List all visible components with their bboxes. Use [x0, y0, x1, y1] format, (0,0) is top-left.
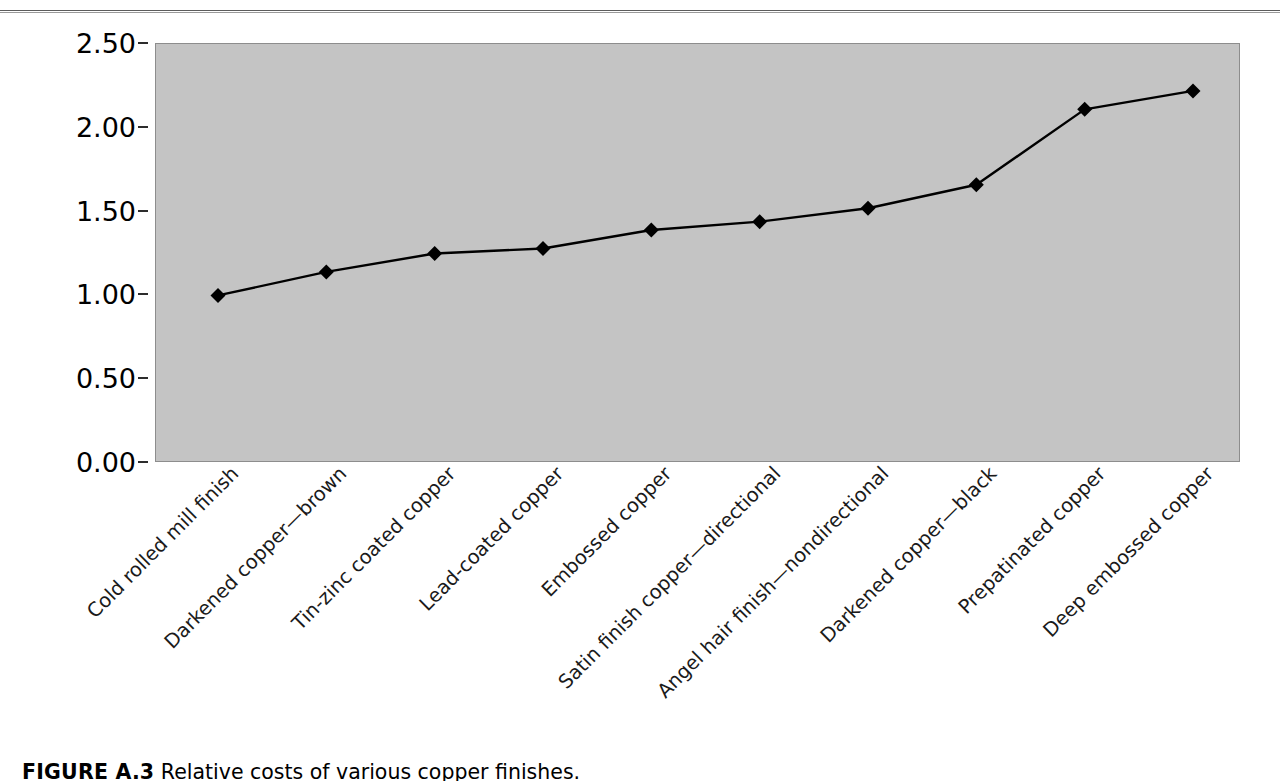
data-point-marker	[752, 214, 767, 229]
y-axis-tick-mark	[138, 377, 148, 379]
page-header-rule	[0, 10, 1280, 11]
data-point-marker	[861, 201, 876, 216]
x-axis-category-label-text: Angel hair finish—nondirectional	[653, 462, 894, 703]
data-point-marker	[536, 241, 551, 256]
data-point-marker	[319, 264, 334, 279]
figure-page: 0.000.501.001.502.002.50 Cold rolled mil…	[0, 0, 1280, 781]
data-point-marker	[211, 288, 226, 303]
series-line	[218, 91, 1193, 295]
y-axis-tick-mark	[138, 42, 148, 44]
y-axis-tick-label: 0.50	[76, 363, 136, 394]
figure-caption: FIGURE A.3 Relative costs of various cop…	[22, 760, 1262, 781]
x-axis-category-label-text: Darkened copper—black	[816, 462, 1001, 647]
x-axis-category-label-text: Darkened copper—brown	[160, 462, 351, 653]
data-point-marker	[1186, 83, 1201, 98]
y-axis-tick-mark	[138, 210, 148, 212]
x-axis-category-label-text: Satin finish copper—directional	[553, 462, 785, 694]
page-header-text	[740, 0, 1160, 6]
y-axis-tick-mark	[138, 293, 148, 295]
y-axis: 0.000.501.001.502.002.50	[30, 43, 148, 462]
figure-caption-text: Relative costs of various copper finishe…	[161, 760, 580, 781]
y-axis-tick-label: 2.50	[76, 28, 136, 59]
y-axis-tick-mark	[138, 126, 148, 128]
y-axis-tick-label: 1.00	[76, 279, 136, 310]
data-point-marker	[644, 223, 659, 238]
data-point-marker	[1077, 102, 1092, 117]
data-point-marker	[427, 246, 442, 261]
x-axis-labels: Cold rolled mill finishDarkened copper—b…	[0, 462, 1280, 742]
y-axis-tick-label: 1.50	[76, 195, 136, 226]
y-axis-tick-label: 2.00	[76, 111, 136, 142]
data-point-marker	[969, 177, 984, 192]
page-header-rule-secondary	[0, 12, 1280, 13]
figure-caption-label: FIGURE A.3	[22, 760, 154, 781]
